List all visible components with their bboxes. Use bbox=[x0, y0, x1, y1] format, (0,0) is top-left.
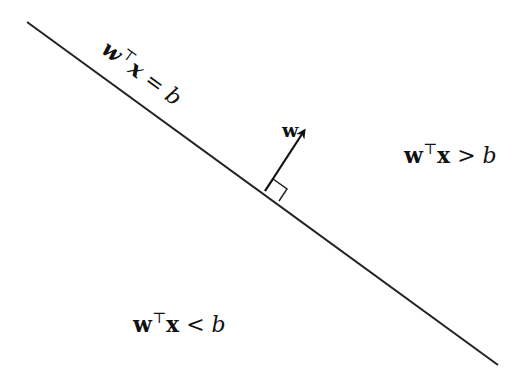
hyperplane-line bbox=[27, 22, 498, 365]
normal-vector-label: w bbox=[281, 119, 299, 141]
positive-region-label: w⊤x > b bbox=[403, 140, 497, 168]
hyperplane-equation-label: w⊤x = b bbox=[97, 33, 188, 110]
hyperplane-diagram: w w⊤x = b w⊤x > b w⊤x < b bbox=[0, 0, 528, 375]
negative-region-label: w⊤x < b bbox=[132, 309, 226, 337]
svg-text:w⊤x = b: w⊤x = b bbox=[97, 33, 188, 110]
